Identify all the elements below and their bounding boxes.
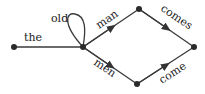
node-start (11, 44, 17, 50)
node-top (136, 6, 142, 12)
node-end (191, 44, 197, 50)
edge-old-loop (68, 14, 85, 47)
node-bottom (134, 81, 140, 87)
label-the: the (24, 31, 42, 44)
label-men: men (91, 56, 118, 80)
word-lattice-diagram: the old man men comes come (0, 0, 205, 94)
label-comes: comes (158, 2, 195, 33)
label-come: come (157, 59, 189, 86)
edge-man-arrow (83, 27, 112, 47)
label-old: old (51, 12, 68, 25)
node-hub (80, 44, 86, 50)
label-man: man (93, 7, 120, 31)
